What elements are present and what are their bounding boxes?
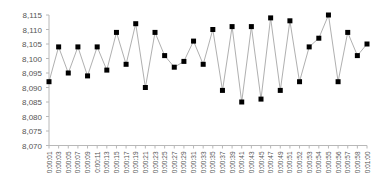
data-point-marker — [259, 97, 264, 102]
x-tick-label: 0:00:11 — [94, 151, 101, 173]
data-point-marker — [316, 36, 321, 41]
data-point-marker — [297, 79, 302, 84]
x-tick-label: 0:00:03 — [55, 151, 62, 173]
line-chart: 8,0708,0758,0808,0858,0908,0958,1008,105… — [0, 0, 389, 190]
data-point-marker — [104, 68, 109, 73]
data-point-marker — [75, 44, 80, 49]
x-tick-label: 0:00:05 — [65, 151, 72, 173]
x-tick-label: 0:00:13 — [103, 151, 110, 173]
y-axis: 8,0708,0758,0808,0858,0908,0958,1008,105… — [22, 11, 49, 151]
x-tick-label: 0:00:25 — [161, 151, 168, 173]
x-tick-label: 0:00:15 — [113, 151, 120, 173]
data-point-marker — [326, 13, 331, 18]
x-tick-label: 0:00:21 — [142, 151, 149, 173]
x-tick-label: 0:00:54 — [315, 151, 322, 173]
data-point-marker — [56, 44, 61, 49]
data-point-marker — [153, 30, 158, 35]
data-series — [47, 13, 370, 105]
y-tick-label: 8,070 — [22, 142, 43, 151]
data-point-marker — [345, 30, 350, 35]
data-point-marker — [66, 71, 71, 76]
x-tick-label: 0:00:37 — [219, 151, 226, 173]
x-tick-label: 0:00:31 — [190, 151, 197, 173]
data-point-marker — [181, 59, 186, 64]
x-tick-label: 0:00:19 — [132, 151, 139, 173]
data-point-marker — [336, 79, 341, 84]
data-point-marker — [133, 21, 138, 26]
x-tick-label: 0:00:47 — [267, 151, 274, 173]
data-point-marker — [287, 18, 292, 23]
data-point-marker — [278, 88, 283, 93]
data-point-marker — [249, 24, 254, 29]
data-point-marker — [85, 73, 90, 78]
x-tick-label: 0:00:07 — [74, 151, 81, 173]
x-tick-label: 0:00:43 — [248, 151, 255, 173]
data-point-marker — [124, 62, 129, 67]
x-tick-label: 0:00:27 — [171, 151, 178, 173]
y-tick-label: 8,080 — [22, 113, 43, 122]
data-point-marker — [201, 62, 206, 67]
x-tick-label: 0:00:39 — [229, 151, 236, 173]
x-tick-label: 0:00:09 — [84, 151, 91, 173]
y-tick-label: 8,085 — [22, 98, 43, 107]
x-tick-label: 0:00:51 — [286, 151, 293, 173]
x-tick-label: 0:00:01 — [46, 151, 53, 173]
data-point-marker — [230, 24, 235, 29]
x-tick-label: 0:00:23 — [152, 151, 159, 173]
x-tick-label: 0:00:58 — [354, 151, 361, 173]
data-point-marker — [268, 15, 273, 20]
data-point-marker — [210, 27, 215, 32]
data-point-marker — [114, 30, 119, 35]
data-point-marker — [95, 44, 100, 49]
data-point-marker — [191, 39, 196, 44]
x-tick-label: 0:00:49 — [277, 151, 284, 173]
data-point-marker — [162, 53, 167, 58]
data-point-marker — [307, 44, 312, 49]
data-point-marker — [47, 79, 52, 84]
series-line — [49, 15, 367, 102]
x-tick-label: 0:00:29 — [180, 151, 187, 173]
x-axis: 0:00:010:00:030:00:050:00:070:00:090:00:… — [46, 146, 371, 174]
y-tick-label: 8,095 — [22, 69, 43, 78]
y-tick-label: 8,090 — [22, 84, 43, 93]
data-point-marker — [239, 100, 244, 105]
x-tick-label: 0:00:33 — [200, 151, 207, 173]
x-tick-label: 0:00:45 — [258, 151, 265, 173]
data-point-marker — [355, 53, 360, 58]
x-tick-label: 0:01:00 — [364, 151, 371, 173]
y-tick-label: 8,105 — [22, 40, 43, 49]
x-tick-label: 0:00:35 — [209, 151, 216, 173]
y-tick-label: 8,075 — [22, 127, 43, 136]
y-tick-label: 8,100 — [22, 55, 43, 64]
data-point-marker — [172, 65, 177, 70]
x-tick-label: 0:00:17 — [123, 151, 130, 173]
x-tick-label: 0:00:53 — [306, 151, 313, 173]
x-tick-label: 0:00:55 — [325, 151, 332, 173]
data-point-marker — [220, 88, 225, 93]
x-tick-label: 0:00:56 — [335, 151, 342, 173]
x-tick-label: 0:00:57 — [344, 151, 351, 173]
y-tick-label: 8,115 — [23, 11, 43, 20]
data-point-marker — [365, 42, 370, 47]
x-tick-label: 0:00:41 — [238, 151, 245, 173]
y-tick-label: 8,110 — [23, 26, 43, 35]
data-point-marker — [143, 85, 148, 90]
x-tick-label: 0:00:52 — [296, 151, 303, 173]
